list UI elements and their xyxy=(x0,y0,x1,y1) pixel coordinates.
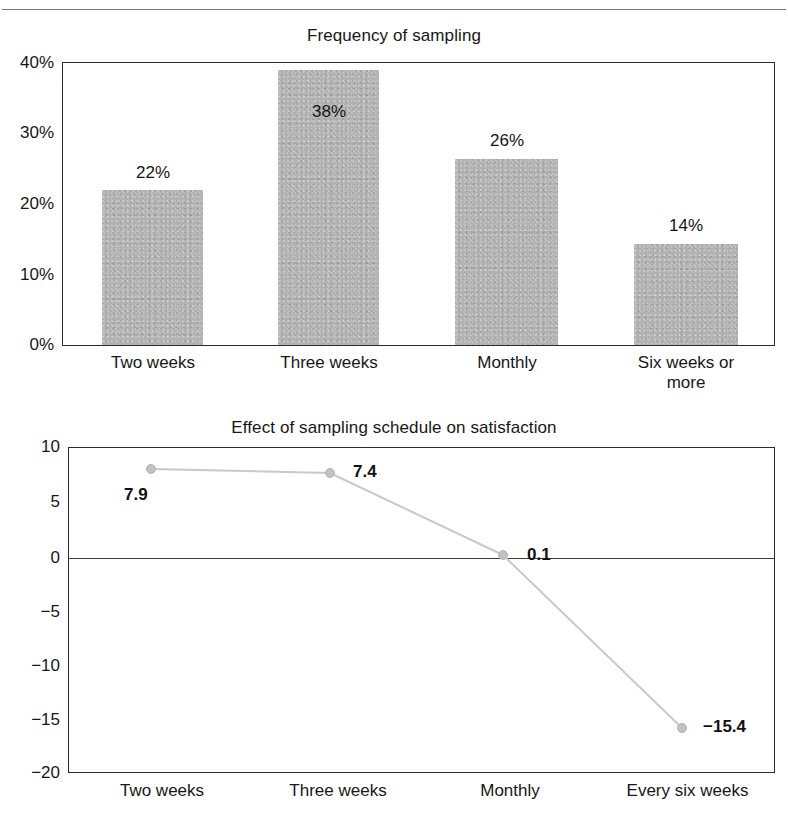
bar-two-weeks[interactable] xyxy=(102,190,203,345)
bar-ytick-10: 10% xyxy=(0,265,54,285)
line-xtick-two-weeks: Two weeks xyxy=(82,781,242,801)
bar-monthly[interactable] xyxy=(455,159,558,345)
bar-ytick-40: 40% xyxy=(0,53,54,73)
bar-xtick-three-weeks: Three weeks xyxy=(249,353,409,373)
line-xtick-three-weeks: Three weeks xyxy=(258,781,418,801)
line-xtick-monthly: Monthly xyxy=(430,781,590,801)
bar-value-label-monthly: 26% xyxy=(490,131,524,151)
figure-page: Frequency of sampling 40% 30% 20% 10% 0%… xyxy=(0,0,788,819)
bar-value-label-six-weeks-or-more: 14% xyxy=(669,216,703,236)
bar-ytick-0: 0% xyxy=(0,335,54,355)
point-value-label-three-weeks: 7.4 xyxy=(353,462,377,482)
point-value-label-two-weeks: 7.9 xyxy=(124,485,148,505)
point-value-label-every-six-weeks: −15.4 xyxy=(703,717,746,737)
bar-ytick-30: 30% xyxy=(0,123,54,143)
bar-xtick-six-weeks-or-more: Six weeks or more xyxy=(606,353,766,393)
line-series-path xyxy=(0,410,788,819)
bar-value-label-two-weeks: 22% xyxy=(136,163,170,183)
line-xtick-every-six-weeks: Every six weeks xyxy=(600,781,775,801)
bar-xtick-monthly: Monthly xyxy=(427,353,587,373)
point-value-label-monthly: 0.1 xyxy=(527,545,551,565)
bar-six-weeks-or-more[interactable] xyxy=(634,244,738,345)
bar-ytick-20: 20% xyxy=(0,194,54,214)
bar-xtick-two-weeks: Two weeks xyxy=(73,353,233,373)
bar-chart-frequency-of-sampling: Frequency of sampling 40% 30% 20% 10% 0%… xyxy=(0,0,788,410)
bar-chart-title: Frequency of sampling xyxy=(0,26,788,46)
bar-value-label-three-weeks: 38% xyxy=(312,102,346,122)
line-chart-effect-of-sampling-schedule: Effect of sampling schedule on satisfact… xyxy=(0,410,788,819)
